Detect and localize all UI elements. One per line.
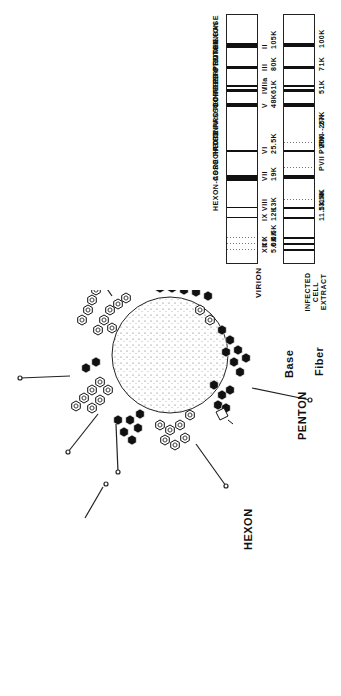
gel-band (284, 85, 314, 87)
molecular-weight-value: 11.5K (318, 200, 325, 221)
molecular-weight-value: PVII - 20K (318, 133, 325, 170)
roman-numeral-label: III (261, 63, 268, 70)
base-label: Base (283, 350, 295, 378)
molecular-weight-value: 12K (270, 206, 277, 220)
molecular-weight-value: 105K (270, 30, 277, 49)
gel-band (284, 237, 314, 239)
gel-band (227, 66, 257, 69)
adenovirus-virion-diagram: HEXON PENTON Base Fiber (0, 290, 341, 696)
gel-band (227, 103, 257, 107)
protein-name-label: HEXON-ASSOCIATED PROTEIN (212, 93, 219, 211)
gel-band (227, 237, 257, 238)
molecular-weight-value: 48K (270, 94, 277, 108)
fiber-label: Fiber (313, 347, 325, 376)
roman-numeral-label: II (261, 44, 268, 49)
gel-band (284, 243, 314, 245)
gel-band (284, 175, 314, 179)
molecular-weight-value: 5.0K (270, 236, 277, 253)
roman-numeral-label: VI (261, 146, 268, 154)
gel-band (227, 207, 257, 208)
gel-band (227, 85, 257, 87)
gel-band (284, 142, 314, 143)
hexon-label: HEXON (242, 508, 254, 550)
gel-band (284, 167, 314, 168)
gel-band (284, 43, 314, 47)
gel-band (284, 217, 314, 219)
gel-band (227, 249, 257, 250)
molecular-weight-value: 19K (270, 167, 277, 181)
gel-band (284, 89, 314, 92)
molecular-weight-value: 80K (270, 56, 277, 70)
gel-band (227, 89, 257, 92)
gel-figure: MOLECULAR WEIGHT VIRION INFECTED CELL EX… (0, 0, 341, 320)
molecular-weight-value: 25.5K (270, 133, 277, 154)
gel-band (227, 150, 257, 152)
roman-numeral-label: IX (261, 213, 268, 221)
gel-band (284, 103, 314, 107)
molecular-weight-value: 51K (318, 79, 325, 93)
roman-numeral-label: VII (261, 171, 268, 181)
gel-band (284, 66, 314, 69)
gel-band (284, 199, 314, 200)
gel-band (227, 243, 257, 244)
gel-band (284, 150, 314, 152)
molecular-weight-value: 71K (318, 56, 325, 70)
roman-numeral-label: IV (261, 86, 268, 94)
gel-band (284, 207, 314, 209)
gel-band (227, 43, 257, 48)
roman-numeral-label: XII (261, 242, 268, 252)
infected-cell-extract-gel-lane (283, 14, 315, 264)
penton-label: PENTON (296, 391, 308, 440)
roman-numeral-label: VIII (261, 198, 268, 211)
virion-gel-lane (226, 14, 258, 264)
gel-band (227, 217, 257, 218)
gel-band (227, 175, 257, 181)
gel-band (284, 249, 314, 251)
molecular-weight-value: 61K (270, 79, 277, 93)
roman-numeral-label: V (261, 103, 268, 108)
molecular-weight-value: 100K (318, 29, 325, 48)
